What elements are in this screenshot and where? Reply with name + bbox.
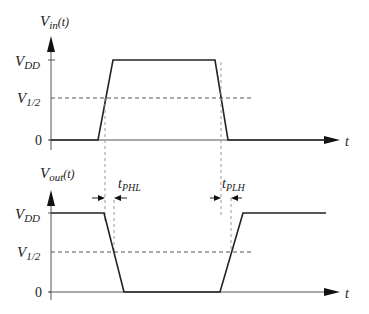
tphl-annotation: tPHL xyxy=(92,176,141,201)
vin-label-v-half: V1/2 xyxy=(17,90,41,108)
vout-label-vdd: VDD xyxy=(15,206,40,224)
delay-guides xyxy=(105,62,231,252)
vout-y-axis-arrow-icon xyxy=(47,190,55,206)
tplh-left-arrow-icon xyxy=(214,195,221,201)
vin-label-vdd: VDD xyxy=(15,53,40,71)
tplh-right-arrow-icon xyxy=(231,195,238,201)
timing-diagram: Vin(t) VDD V1/2 0 t Vout(t) VDD xyxy=(0,0,369,314)
tphl-left-arrow-icon xyxy=(98,195,105,201)
vout-label-zero: 0 xyxy=(35,285,42,300)
vin-plot: Vin(t) VDD V1/2 0 t xyxy=(15,13,350,150)
vout-y-axis-label: Vout(t) xyxy=(40,165,75,183)
vin-y-axis-arrow-icon xyxy=(47,36,55,52)
tphl-right-arrow-icon xyxy=(114,195,121,201)
tphl-label: tPHL xyxy=(118,176,141,193)
vin-label-zero: 0 xyxy=(35,133,42,148)
tplh-label: tPLH xyxy=(222,176,246,193)
vin-waveform xyxy=(51,60,330,140)
vout-x-axis-label: t xyxy=(345,286,350,301)
vout-plot: Vout(t) VDD V1/2 0 t xyxy=(15,165,350,301)
tplh-annotation: tPLH xyxy=(210,176,246,201)
vin-x-axis-label: t xyxy=(345,134,350,149)
vout-x-axis-arrow-icon xyxy=(324,288,340,296)
vin-y-axis-label: Vin(t) xyxy=(40,13,69,31)
vout-waveform xyxy=(51,213,326,292)
vout-label-v-half: V1/2 xyxy=(17,244,41,262)
